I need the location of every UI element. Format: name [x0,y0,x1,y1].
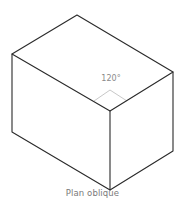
angle-label: 120° [101,74,120,83]
top-face [12,15,173,111]
angle-marker [94,90,127,101]
left-face [12,54,110,190]
oblique-box-diagram: 120° [0,0,185,214]
diagram-caption: Plan oblique [0,188,185,198]
right-face [110,72,173,190]
